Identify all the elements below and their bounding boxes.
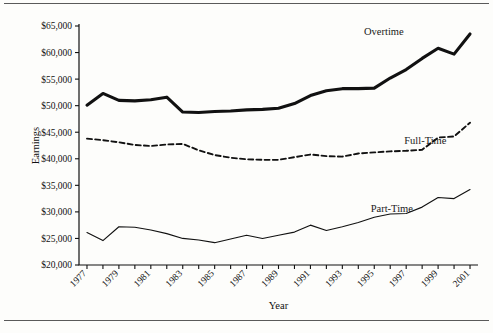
x-tick-label: 1983: [164, 268, 185, 289]
x-tick-label: 1999: [419, 268, 440, 289]
x-tick-label: 1985: [196, 268, 217, 289]
x-tick-label: 1981: [132, 268, 153, 289]
series-label-full-time: Full-Time: [404, 135, 447, 146]
x-tick-label: 1987: [227, 268, 248, 289]
y-tick-label: $55,000: [41, 75, 72, 85]
x-tick-label: 1977: [68, 268, 89, 289]
y-tick-label: $25,000: [41, 234, 72, 244]
y-tick-label: $30,000: [41, 207, 72, 217]
x-tick-label: 1995: [355, 268, 376, 289]
y-tick-label: $60,000: [41, 48, 72, 58]
y-tick-label: $40,000: [41, 154, 72, 164]
series-label-part-time: Part-Time: [371, 203, 414, 214]
x-tick-label: 1991: [291, 268, 312, 289]
series-line-overtime: [87, 34, 470, 113]
line-chart-figure: $20,000$25,000$30,000$35,000$40,000$45,0…: [0, 10, 493, 310]
series-label-overtime: Overtime: [364, 26, 404, 37]
y-tick-label: $50,000: [41, 101, 72, 111]
top-rule: [4, 3, 489, 4]
y-tick-label: $35,000: [41, 181, 72, 191]
x-tick-label: 1979: [100, 268, 121, 289]
x-tick-label: 1989: [259, 268, 280, 289]
figure-page: $20,000$25,000$30,000$35,000$40,000$45,0…: [0, 0, 493, 333]
chart-svg: $20,000$25,000$30,000$35,000$40,000$45,0…: [0, 10, 493, 310]
series-line-part-time: [87, 190, 470, 243]
x-tick-label: 1993: [323, 268, 344, 289]
x-tick-label: 2001: [451, 268, 472, 289]
y-tick-label: $20,000: [41, 260, 72, 270]
y-axis-title: Earnings: [30, 127, 41, 164]
bottom-rule: [4, 320, 489, 321]
x-tick-label: 1997: [387, 268, 408, 289]
y-tick-label: $45,000: [41, 128, 72, 138]
x-axis-title: Year: [269, 300, 289, 310]
y-tick-label: $65,000: [41, 21, 72, 31]
